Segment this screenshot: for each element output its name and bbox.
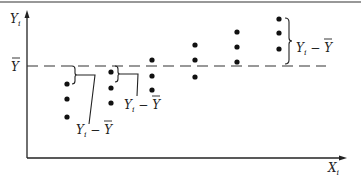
mean-label: Y [11,58,20,74]
svg-text:Y: Y [11,60,20,74]
deviation-brace-1 [72,66,95,124]
point [149,87,154,92]
point [192,57,197,62]
point [149,73,154,78]
point [234,29,239,34]
point [108,85,113,90]
deviation-label-2: Yi − Y [124,98,161,114]
point [64,114,69,119]
x-axis-arrow-icon [339,156,347,161]
y-axis-label: Yi [10,12,21,28]
point [64,81,69,86]
point [276,46,281,51]
point [276,30,281,35]
deviation-brace-2 [115,66,138,96]
point [108,69,113,74]
point [276,16,281,21]
deviation-brace-6 [285,18,292,64]
point [234,59,239,64]
regression-deviation-diagram: Yi Y Xi Yi − Y Yi − Y [0,0,361,176]
point [192,42,197,47]
x-axis-label: Xi [327,161,340,176]
deviation-label-6: Yi − Y [296,41,333,57]
point [234,44,239,49]
y-axis-arrow-icon [25,10,30,18]
point [64,96,69,101]
point [149,57,154,62]
point [192,74,197,79]
deviation-label-1: Yi − Y [76,123,113,139]
point [108,100,113,105]
axes [25,10,348,161]
data-points [64,16,281,119]
